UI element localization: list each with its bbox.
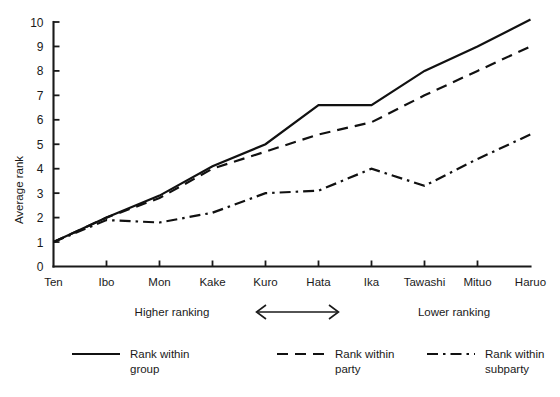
x-tick-label-ten: Ten [44, 276, 63, 288]
y-tick-label: 1 [37, 236, 44, 250]
y-tick-label: 10 [30, 16, 44, 30]
x-tick-label-mituo: Mituo [463, 276, 491, 288]
y-tick-label: 3 [37, 187, 44, 201]
x-tick-label-kuro: Kuro [253, 276, 277, 288]
x-tick-label-ika: Ika [364, 276, 380, 288]
series-rank-within-subparty [54, 134, 531, 242]
axis-annotations: Higher ranking Lower ranking [135, 305, 491, 319]
y-tick-label: 8 [37, 64, 44, 78]
x-tick-label-mon: Mon [148, 276, 170, 288]
y-tick-label: 2 [37, 211, 44, 225]
chart-legend: Rank withingroupRank withinpartyRank wit… [72, 348, 544, 375]
legend-label-line2: subparty [485, 363, 529, 375]
y-axis-tick-labels: 012345678910 [30, 16, 44, 275]
y-axis-title-text: Average rank [13, 156, 25, 224]
y-tick-label: 5 [37, 138, 44, 152]
x-tick-label-kake: Kake [199, 276, 225, 288]
higher-ranking-label: Higher ranking [135, 306, 210, 318]
data-series-group [54, 20, 531, 242]
legend-label-line1: Rank within [130, 348, 189, 360]
x-tick-label-tawashi: Tawashi [404, 276, 446, 288]
line-chart: Average rank 012345678910 TenIboMonKakeK… [0, 0, 560, 397]
x-tick-label-hata: Hata [306, 276, 331, 288]
legend-label-line1: Rank within [335, 348, 394, 360]
y-tick-label: 9 [37, 40, 44, 54]
x-tick-label-haruo: Haruo [515, 276, 546, 288]
y-tick-label: 7 [37, 89, 44, 103]
legend-label-line1: Rank within [485, 348, 544, 360]
series-rank-within-party [54, 46, 531, 242]
x-tick-label-ibo: Ibo [99, 276, 115, 288]
y-tick-label: 0 [37, 260, 44, 274]
y-tick-label: 6 [37, 113, 44, 127]
y-tick-label: 4 [37, 162, 44, 176]
legend-label-line2: group [130, 363, 159, 375]
series-rank-within-group [54, 20, 531, 242]
lower-ranking-label: Lower ranking [418, 306, 490, 318]
legend-label-line2: party [335, 363, 361, 375]
range-arrow-icon [257, 305, 339, 319]
x-axis-tick-labels: TenIboMonKakeKuroHataIkaTawashiMituoHaru… [44, 276, 546, 288]
chart-container: Average rank 012345678910 TenIboMonKakeK… [0, 0, 560, 397]
y-axis-title: Average rank [13, 156, 25, 224]
